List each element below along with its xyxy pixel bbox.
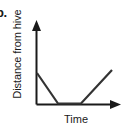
arrow-up-icon (32, 20, 41, 31)
line-chart-figure: b. Distance from hive Time (0, 0, 132, 136)
plot-area (0, 0, 132, 136)
arrow-right-icon (110, 100, 121, 109)
data-line-distance-from-hive (37, 70, 112, 104)
